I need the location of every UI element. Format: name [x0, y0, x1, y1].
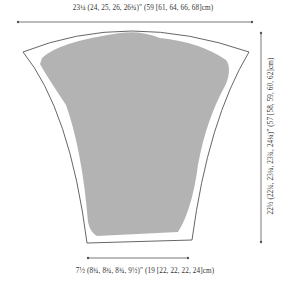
bottom-width-measure-line — [87, 257, 189, 259]
top-width-measure-line — [17, 21, 253, 23]
top-width-label: 23¼ (24, 25, 26, 26¾)" (59 [61, 64, 66, … — [0, 4, 286, 12]
garment-fill — [40, 32, 229, 236]
schematic-drawing — [0, 0, 286, 291]
bottom-width-label: 7½ (8¾, 8¾, 8¾, 9½)" (19 [22, 22, 22, 24… — [0, 267, 286, 275]
side-length-measure-line — [260, 32, 262, 243]
side-length-label: 22½ (22¾, 23¼, 23¾, 24¼)" (57 [58, 59, 6… — [267, 58, 275, 215]
